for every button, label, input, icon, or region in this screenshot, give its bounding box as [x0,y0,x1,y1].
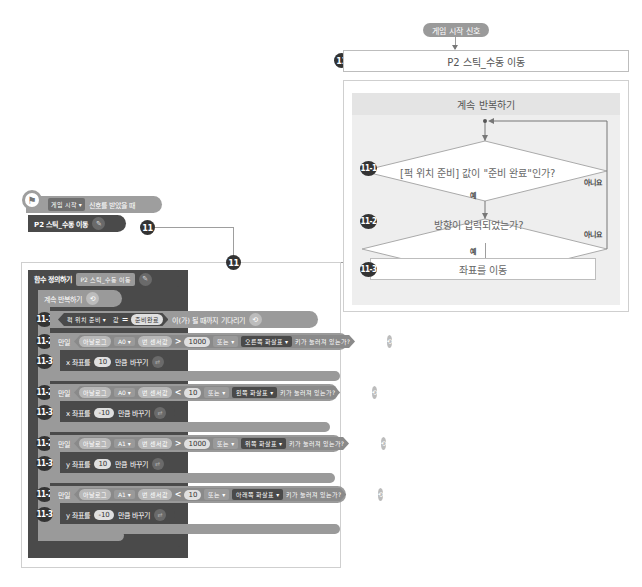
or-dropdown[interactable]: 또는 ▾ [204,489,229,500]
function-call-block[interactable]: P2 스틱_수동 이동 ✎ [28,215,126,232]
condition: 아날로그 A1 ▾ 번 센서값 > 1000 또는 ▾ 위쪽 화살표 ▾ 키가 … [74,437,349,450]
key-question: 키가 눌러져 있는가? [289,439,344,448]
if-block[interactable]: 만일 아날로그 A0 ▾ 번 센서값 < 10 또는 ▾ 왼쪽 화살표 ▾ 키가… [50,384,338,401]
number-input[interactable]: 1000 [184,439,210,449]
wait-until-block[interactable]: 퍽 위치 준비 ▾ 값 = 준비완료 이(가) 될 때까지 기다리기 ⟲ [50,311,318,328]
value-input[interactable]: 준비완료 [131,314,163,325]
if-keyword: 만일 [58,388,70,398]
if-block[interactable]: 만일 아날로그 A0 ▾ 번 센서값 > 1000 또는 ▾ 오른쪽 화살표 ▾… [50,333,348,350]
key-question: 키가 눌러져 있는가? [295,337,350,346]
step-badge: 11-3 [36,507,53,522]
forever-loop-block[interactable]: 계속 반복하기 ⟲ [38,290,122,307]
pin-dropdown[interactable]: A1 ▾ [114,490,135,499]
connector-line [155,227,233,228]
number-input[interactable]: 10 [184,388,201,398]
variable-dropdown[interactable]: 퍽 위치 준비 ▾ [63,314,110,325]
axis-label: x 좌표를 [66,357,90,367]
key-dropdown[interactable]: 위쪽 화살표 ▾ [241,438,286,449]
or-dropdown[interactable]: 또는 ▾ [213,438,238,449]
sensor-value: 번 센서값 [138,387,172,398]
number-input[interactable]: 10 [184,490,201,500]
step-badge: 11-3 [36,354,53,369]
pin-dropdown[interactable]: A1 ▾ [114,439,135,448]
or-dropdown[interactable]: 또는 ▾ [213,336,238,347]
yes-label: 예 [470,246,476,256]
decision-text: [퍽 위치 준비] 값이 "준비 완료"인가? [400,165,555,180]
when-signal-received-block[interactable]: 게임 시작 ▾ 신호를 받았을 때 [26,196,162,213]
delta-input[interactable]: -10 [94,408,113,418]
function-title-box: P2 스틱_수동 이동 [343,50,629,72]
operator: = [122,315,129,324]
change-coordinate-block[interactable]: x 좌표를 -10 만큼 바꾸기 ⇄ [60,404,175,421]
no-label: 아니요 [584,177,602,187]
if-block[interactable]: 만일 아날로그 A1 ▾ 번 센서값 < 10 또는 ▾ 아래쪽 화살표 ▾ 키… [50,486,346,503]
change-coordinate-block[interactable]: y 좌표를 -10 만큼 바꾸기 ⇄ [60,506,175,523]
pencil-icon[interactable]: ✎ [92,217,105,230]
block-text: 만큼 바꾸기 [118,510,150,520]
condition: 아날로그 A0 ▾ 번 센서값 > 1000 또는 ▾ 오른쪽 화살표 ▾ 키가… [74,335,355,348]
loop-icon: ⟲ [86,292,99,305]
then-keyword: (이)라면 [359,337,382,347]
if-keyword: 만일 [58,490,70,500]
connector-line [233,227,234,258]
delta-input[interactable]: 10 [94,357,111,367]
if-end [50,371,340,381]
axis-label: y 좌표를 [66,459,90,469]
key-question: 키가 눌러져 있는가? [280,388,335,397]
if-keyword: 만일 [58,337,70,347]
connector-badge: 11 [140,220,155,235]
step-badge: 11-1 [360,161,377,176]
condition: 아날로그 A1 ▾ 번 센서값 < 10 또는 ▾ 아래쪽 화살표 ▾ 키가 눌… [74,488,346,501]
motion-icon: ⇄ [152,458,164,470]
step-badge: 11-3 [36,405,53,420]
flowchart-diagram [352,115,622,260]
pencil-icon[interactable]: ✎ [139,273,152,286]
no-label: 아니요 [584,229,602,239]
if-block[interactable]: 만일 아날로그 A1 ▾ 번 센서값 > 1000 또는 ▾ 위쪽 화살표 ▾ … [50,435,342,452]
decision-text: 방향이 입력되었는가? [434,217,524,232]
condition: 아날로그 A0 ▾ 번 센서값 < 10 또는 ▾ 왼쪽 화살표 ▾ 키가 눌러… [74,386,340,399]
then-keyword: (이)라면 [350,490,373,500]
key-question: 키가 눌러져 있는가? [286,490,341,499]
pin-dropdown[interactable]: A0 ▾ [114,337,135,346]
key-dropdown[interactable]: 왼쪽 화살표 ▾ [232,387,277,398]
pin-dropdown[interactable]: A0 ▾ [114,388,135,397]
if-end [50,422,330,432]
yes-label: 예 [470,190,476,200]
key-dropdown[interactable]: 오른쪽 화살표 ▾ [241,336,292,347]
function-definition-block[interactable]: 함수 정의하기 P2 스틱_수동 이동 ✎ [28,270,182,288]
if-keyword: 만일 [58,439,70,449]
sensor-value: 번 센서값 [138,489,172,500]
change-coordinate-block[interactable]: y 좌표를 10 만큼 바꾸기 ⇄ [60,455,170,472]
motion-icon: ⇄ [154,407,166,419]
change-coordinate-block[interactable]: x 좌표를 10 만큼 바꾸기 ⇄ [60,353,170,370]
motion-icon: ⇄ [152,356,164,368]
delta-input[interactable]: 10 [94,459,111,469]
sensor-label: 아날로그 [79,489,111,500]
operator: > [175,337,182,346]
key-dropdown[interactable]: 아래쪽 화살표 ▾ [232,489,283,500]
flag-icon: ⚑ [22,190,42,210]
operator: < [175,490,182,499]
if-end [50,473,335,483]
block-text: 신호를 받았을 때 [89,200,135,210]
block-text: 만큼 바꾸기 [115,357,147,367]
block-text: 만큼 바꾸기 [118,408,150,418]
operator: > [175,439,182,448]
action-box: 좌표를 이동 [370,258,596,280]
branch-icon: ⟲ [387,335,393,348]
function-name-pill: P2 스틱_수동 이동 [76,273,134,286]
block-text: 계속 반복하기 [44,294,82,304]
or-dropdown[interactable]: 또는 ▾ [204,387,229,398]
block-text: 만큼 바꾸기 [115,459,147,469]
branch-icon: ⟲ [381,437,387,450]
then-keyword: (이)라면 [344,388,367,398]
number-input[interactable]: 1000 [184,337,210,347]
loop-icon: ⟲ [249,313,262,326]
axis-label: y 좌표를 [66,510,90,520]
sensor-label: 아날로그 [79,336,111,347]
step-badge: 11-2 [360,214,377,229]
signal-dropdown[interactable]: 게임 시작 ▾ [48,198,85,211]
block-text: 이(가) 될 때까지 기다리기 [172,315,244,325]
delta-input[interactable]: -10 [94,510,113,520]
